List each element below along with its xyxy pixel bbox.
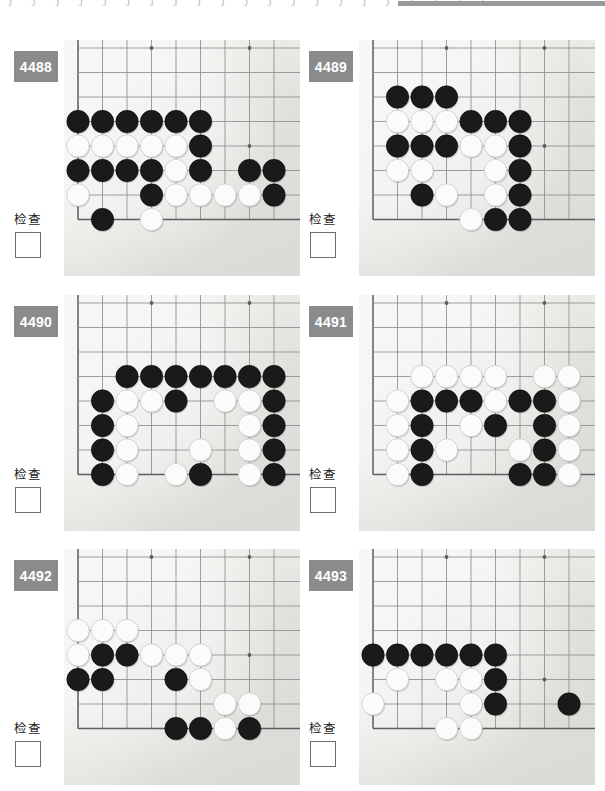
white-stone[interactable] — [558, 365, 580, 387]
black-stone[interactable] — [140, 159, 162, 181]
black-stone[interactable] — [116, 110, 138, 132]
white-stone[interactable] — [460, 365, 482, 387]
black-stone[interactable] — [460, 390, 482, 412]
goban-4491[interactable] — [359, 295, 595, 531]
white-stone[interactable] — [460, 135, 482, 157]
black-stone[interactable] — [238, 717, 260, 739]
black-stone[interactable] — [411, 390, 433, 412]
black-stone[interactable] — [460, 644, 482, 666]
black-stone[interactable] — [263, 184, 285, 206]
white-stone[interactable] — [460, 208, 482, 230]
black-stone[interactable] — [263, 159, 285, 181]
black-stone[interactable] — [91, 668, 113, 690]
black-stone[interactable] — [509, 184, 531, 206]
black-stone[interactable] — [411, 644, 433, 666]
white-stone[interactable] — [91, 619, 113, 641]
white-stone[interactable] — [484, 159, 506, 181]
white-stone[interactable] — [238, 390, 260, 412]
goban-4488[interactable] — [64, 40, 300, 276]
white-stone[interactable] — [116, 619, 138, 641]
white-stone[interactable] — [435, 439, 457, 461]
black-stone[interactable] — [116, 159, 138, 181]
white-stone[interactable] — [140, 135, 162, 157]
black-stone[interactable] — [263, 390, 285, 412]
white-stone[interactable] — [165, 463, 187, 485]
white-stone[interactable] — [386, 390, 408, 412]
white-stone[interactable] — [214, 717, 236, 739]
black-stone[interactable] — [165, 717, 187, 739]
black-stone[interactable] — [189, 135, 211, 157]
black-stone[interactable] — [189, 365, 211, 387]
black-stone[interactable] — [238, 365, 260, 387]
white-stone[interactable] — [165, 184, 187, 206]
black-stone[interactable] — [435, 135, 457, 157]
black-stone[interactable] — [509, 135, 531, 157]
black-stone[interactable] — [435, 644, 457, 666]
white-stone[interactable] — [116, 439, 138, 461]
black-stone[interactable] — [411, 184, 433, 206]
white-stone[interactable] — [435, 668, 457, 690]
black-stone[interactable] — [91, 208, 113, 230]
black-stone[interactable] — [263, 439, 285, 461]
check-checkbox[interactable] — [310, 487, 336, 513]
black-stone[interactable] — [411, 463, 433, 485]
black-stone[interactable] — [140, 110, 162, 132]
white-stone[interactable] — [116, 463, 138, 485]
black-stone[interactable] — [263, 365, 285, 387]
white-stone[interactable] — [189, 439, 211, 461]
black-stone[interactable] — [558, 693, 580, 715]
white-stone[interactable] — [484, 390, 506, 412]
black-stone[interactable] — [189, 463, 211, 485]
white-stone[interactable] — [435, 110, 457, 132]
black-stone[interactable] — [189, 110, 211, 132]
black-stone[interactable] — [533, 463, 555, 485]
white-stone[interactable] — [509, 439, 531, 461]
white-stone[interactable] — [67, 135, 89, 157]
white-stone[interactable] — [386, 439, 408, 461]
white-stone[interactable] — [362, 693, 384, 715]
black-stone[interactable] — [214, 365, 236, 387]
black-stone[interactable] — [386, 644, 408, 666]
white-stone[interactable] — [140, 644, 162, 666]
black-stone[interactable] — [533, 439, 555, 461]
black-stone[interactable] — [263, 463, 285, 485]
black-stone[interactable] — [91, 390, 113, 412]
black-stone[interactable] — [140, 365, 162, 387]
white-stone[interactable] — [214, 693, 236, 715]
black-stone[interactable] — [67, 668, 89, 690]
white-stone[interactable] — [411, 365, 433, 387]
white-stone[interactable] — [238, 184, 260, 206]
white-stone[interactable] — [386, 159, 408, 181]
black-stone[interactable] — [165, 390, 187, 412]
white-stone[interactable] — [484, 365, 506, 387]
black-stone[interactable] — [411, 86, 433, 108]
white-stone[interactable] — [189, 184, 211, 206]
white-stone[interactable] — [386, 414, 408, 436]
black-stone[interactable] — [67, 159, 89, 181]
white-stone[interactable] — [558, 439, 580, 461]
black-stone[interactable] — [91, 644, 113, 666]
white-stone[interactable] — [238, 414, 260, 436]
goban-4490[interactable] — [64, 295, 300, 531]
white-stone[interactable] — [558, 414, 580, 436]
black-stone[interactable] — [533, 414, 555, 436]
white-stone[interactable] — [165, 644, 187, 666]
white-stone[interactable] — [411, 159, 433, 181]
black-stone[interactable] — [91, 110, 113, 132]
black-stone[interactable] — [509, 159, 531, 181]
black-stone[interactable] — [509, 208, 531, 230]
white-stone[interactable] — [558, 390, 580, 412]
goban-4492[interactable] — [64, 549, 300, 785]
white-stone[interactable] — [67, 619, 89, 641]
goban-4493[interactable] — [359, 549, 595, 785]
goban-4489[interactable] — [359, 40, 595, 276]
white-stone[interactable] — [460, 693, 482, 715]
black-stone[interactable] — [533, 390, 555, 412]
black-stone[interactable] — [91, 463, 113, 485]
white-stone[interactable] — [386, 668, 408, 690]
black-stone[interactable] — [411, 439, 433, 461]
black-stone[interactable] — [460, 110, 482, 132]
white-stone[interactable] — [91, 135, 113, 157]
white-stone[interactable] — [435, 365, 457, 387]
black-stone[interactable] — [484, 110, 506, 132]
